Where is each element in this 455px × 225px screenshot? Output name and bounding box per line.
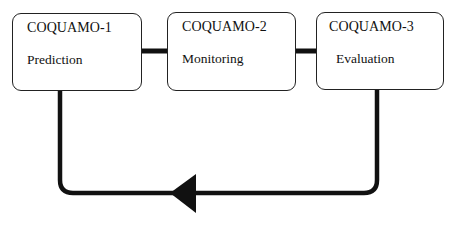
node-title: COQUAMO-1 bbox=[27, 20, 112, 36]
node-title: COQUAMO-2 bbox=[182, 19, 267, 35]
node-title: COQUAMO-3 bbox=[329, 19, 414, 35]
node-subtitle: Monitoring bbox=[182, 51, 244, 67]
feedback-loop-line bbox=[60, 89, 377, 193]
arrow-left-icon bbox=[170, 174, 196, 213]
node-coquamo-3: COQUAMO-3 Evaluation bbox=[316, 12, 444, 90]
node-coquamo-1: COQUAMO-1 Prediction bbox=[12, 13, 142, 91]
node-subtitle: Prediction bbox=[27, 52, 83, 68]
node-coquamo-2: COQUAMO-2 Monitoring bbox=[167, 12, 296, 91]
node-subtitle: Evaluation bbox=[336, 51, 394, 67]
